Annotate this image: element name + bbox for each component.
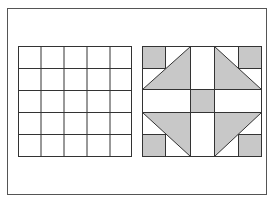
quilt-diagram [0, 0, 275, 205]
quilt-block [143, 47, 262, 157]
corner-square-bl [143, 135, 166, 157]
corner-square-br [239, 135, 262, 157]
corner-square-tr [239, 47, 262, 69]
corner-square-tl [143, 47, 166, 69]
quilt-figure [0, 0, 275, 205]
center-square [191, 90, 215, 113]
